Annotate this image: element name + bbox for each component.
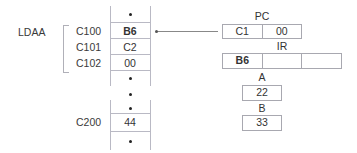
instruction-label: LDAA [18,26,45,38]
address-c101: C101 [76,41,101,53]
ir-label: IR [222,40,342,52]
ir-byte-1: B6 [223,54,263,68]
a-value: 22 [243,86,281,100]
memory-value-c101: C2 [110,41,150,53]
ellipsis-dot-icon [129,93,132,96]
arrow-head-icon [155,30,158,33]
ir-byte-3 [302,54,341,68]
ir-byte-2 [263,54,303,68]
ellipsis-dot-icon [129,77,132,80]
pc-high-byte: C1 [223,25,263,38]
instruction-bracket [63,25,69,73]
ellipsis-dot-icon [129,13,132,16]
b-register: 33 [242,115,282,131]
a-label: A [242,71,282,83]
ellipsis-dot-icon [129,140,132,143]
pc-low-byte: 00 [263,25,302,38]
pc-register: C1 00 [222,24,302,39]
b-label: B [242,102,282,114]
address-c200: C200 [76,116,101,128]
pc-label: PC [222,10,302,22]
address-c102: C102 [76,57,101,69]
pc-pointer-arrow [156,31,218,32]
memory-value-c100: B6 [110,25,150,37]
a-register: 22 [242,85,282,101]
memory-value-c102: 00 [110,57,150,69]
ellipsis-dot-icon [129,107,132,110]
address-c100: C100 [76,25,101,37]
ir-register: B6 [222,53,342,69]
b-value: 33 [243,116,281,130]
memory-value-c200: 44 [110,116,150,128]
